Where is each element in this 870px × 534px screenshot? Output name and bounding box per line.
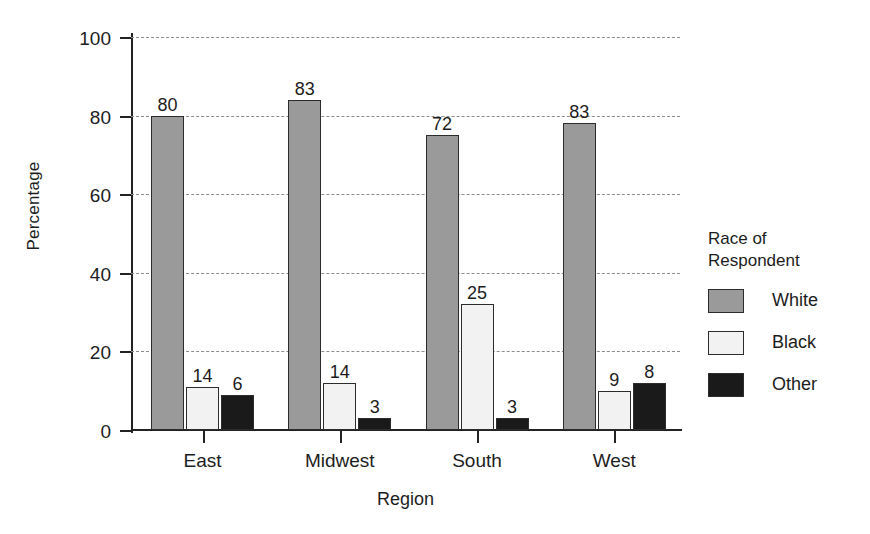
x-axis-category-label: East <box>183 450 221 472</box>
y-axis-title: Percentage <box>24 126 44 286</box>
bar-chart: Percentage 02040608010080146East83143Mid… <box>0 0 870 534</box>
plot-area: 02040608010080146East83143Midwest72253So… <box>131 37 680 430</box>
bar-east-other: 6 <box>221 395 254 430</box>
legend-swatch-other <box>708 373 744 397</box>
x-axis-category-label: South <box>452 450 502 472</box>
y-axis-tick: 0 <box>120 430 131 432</box>
x-axis-tick <box>340 430 342 443</box>
bar-value-label: 6 <box>232 375 242 393</box>
bar-east-black: 14 <box>186 387 219 430</box>
bar-south-other: 3 <box>496 418 529 430</box>
x-axis-title: Region <box>131 489 680 510</box>
y-axis-tick: 80 <box>120 116 131 118</box>
y-axis-tick: 20 <box>120 351 131 353</box>
gridline <box>131 194 680 195</box>
gridline <box>131 37 680 38</box>
y-axis-tick: 100 <box>120 37 131 39</box>
bar-south-white: 72 <box>426 135 459 430</box>
legend-item: Other <box>708 373 868 397</box>
legend-label: Other <box>772 374 817 395</box>
bar-midwest-black: 14 <box>323 383 356 430</box>
y-axis-tick: 60 <box>120 194 131 196</box>
bar-value-label: 8 <box>644 363 654 381</box>
gridline <box>131 116 680 117</box>
bar-value-label: 83 <box>569 103 589 121</box>
y-axis-tick-label: 40 <box>90 264 111 286</box>
y-axis-tick: 40 <box>120 273 131 275</box>
bar-south-black: 25 <box>461 304 494 430</box>
bar-value-label: 3 <box>507 398 517 416</box>
bar-value-label: 14 <box>330 363 350 381</box>
bar-west-black: 9 <box>598 391 631 430</box>
y-axis-tick-label: 0 <box>100 421 111 443</box>
legend-item: Black <box>708 331 868 355</box>
bar-west-white: 83 <box>563 123 596 430</box>
gridline <box>131 273 680 274</box>
bar-value-label: 80 <box>157 96 177 114</box>
bar-value-label: 9 <box>609 371 619 389</box>
legend-label: White <box>772 290 818 311</box>
bar-east-white: 80 <box>151 116 184 430</box>
legend-label: Black <box>772 332 816 353</box>
chart-legend: Race of Respondent WhiteBlackOther <box>708 228 868 415</box>
x-axis-category-label: Midwest <box>305 450 375 472</box>
y-axis-tick-label: 20 <box>90 342 111 364</box>
y-axis-tick-label: 60 <box>90 185 111 207</box>
legend-swatch-black <box>708 331 744 355</box>
bar-value-label: 25 <box>467 284 487 302</box>
x-axis-tick <box>477 430 479 443</box>
y-axis-tick-label: 100 <box>79 28 111 50</box>
legend-swatch-white <box>708 289 744 313</box>
x-axis-tick <box>614 430 616 443</box>
bar-value-label: 72 <box>432 115 452 133</box>
y-axis-tick-label: 80 <box>90 107 111 129</box>
legend-title: Race of Respondent <box>708 228 868 273</box>
bar-value-label: 14 <box>192 367 212 385</box>
bar-value-label: 83 <box>295 80 315 98</box>
legend-item: White <box>708 289 868 313</box>
x-axis-tick <box>203 430 205 443</box>
bar-midwest-white: 83 <box>288 100 321 430</box>
bar-value-label: 3 <box>370 398 380 416</box>
bar-west-other: 8 <box>633 383 666 430</box>
bar-midwest-other: 3 <box>358 418 391 430</box>
x-axis-category-label: West <box>593 450 636 472</box>
gridline <box>131 351 680 352</box>
